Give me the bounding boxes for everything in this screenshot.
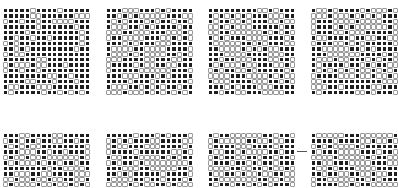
grid-cell [188,62,193,67]
grid-cell [188,46,193,51]
grid-cell [338,149,343,154]
grid-cell [290,182,295,187]
grid-cell [188,24,193,29]
grid-cell [235,24,240,29]
grid-cell [262,182,267,187]
grid-cell [188,73,193,78]
pattern-panel-4 [311,8,398,95]
grid-cell [393,24,398,29]
grid-cell [188,160,193,165]
pattern-panel-5 [3,133,90,187]
grid-cell [387,73,392,78]
pattern-panel-6 [106,133,193,187]
grid-cell [144,46,149,51]
grid-cell [246,171,251,176]
grid-cell [144,90,149,95]
grid-cell [376,182,381,187]
grid-cell [144,62,149,67]
grid-cell [338,46,343,51]
grid-cell [57,182,62,187]
grid-cell [122,171,127,176]
grid-cell [284,182,289,187]
pattern-panel-3 [208,8,295,95]
grid-cell [393,35,398,40]
grid-cell [290,35,295,40]
grid-cell [387,149,392,154]
grid-cell [188,182,193,187]
pattern-panel-2 [106,8,193,95]
grid-cell [290,90,295,95]
grid-cell [85,90,90,95]
grid-cell [68,182,73,187]
grid-cell [349,90,354,95]
grid-cell [133,90,138,95]
grid-cell [160,160,165,165]
grid-cell [85,149,90,154]
grid-cell [79,182,84,187]
grid-cell [349,149,354,154]
grid-cell [19,182,24,187]
pattern-panel-8 [311,133,398,187]
grid-cell [290,171,295,176]
grid-cell [393,90,398,95]
grid-cell [338,171,343,176]
grid-cell [393,73,398,78]
grid-cell [160,62,165,67]
grid-cell [327,46,332,51]
grid-cell [235,90,240,95]
grid-cell [171,24,176,29]
grid-cell [393,84,398,89]
grid-cell [393,46,398,51]
grid-cell [68,160,73,165]
grid-cell [290,24,295,29]
grid-cell [160,35,165,40]
grid-cell [349,182,354,187]
grid-cell [387,182,392,187]
grid-cell [144,182,149,187]
grid-cell [365,90,370,95]
grid-cell [290,149,295,154]
pattern-panel-7 [208,133,295,187]
grid-cell [133,24,138,29]
grid-cell [290,160,295,165]
grid-cell [19,171,24,176]
grid-cell [41,182,46,187]
grid-cell [393,149,398,154]
grid-cell [224,46,229,51]
grid-cell [387,90,392,95]
figure-caption: · · · · · [18,0,43,4]
grid-cell [188,90,193,95]
grid-cell [171,182,176,187]
grid-cell [224,182,229,187]
grid-cell [122,90,127,95]
grid-cell [273,90,278,95]
grid-cell [57,149,62,154]
grid-cell [349,24,354,29]
grid-cell [284,171,289,176]
pattern-panel-1 [3,8,90,95]
grid-cell [393,182,398,187]
grid-cell [290,73,295,78]
grid-cell [365,182,370,187]
grid-cell [338,182,343,187]
grid-cell [160,182,165,187]
grid-cell [262,84,267,89]
dash-marker [297,151,307,152]
grid-cell [85,182,90,187]
grid-cell [133,84,138,89]
grid-cell [262,90,267,95]
grid-cell [182,182,187,187]
